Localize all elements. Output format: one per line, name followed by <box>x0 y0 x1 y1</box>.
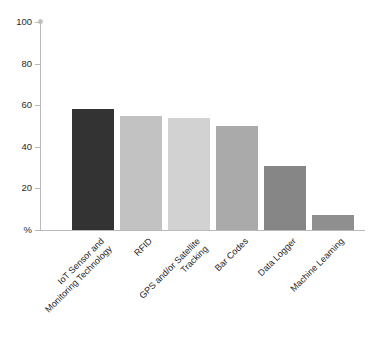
x-axis-labels: IoT Sensor and Monitoring TechnologyRFID… <box>0 0 382 340</box>
bar-chart: %20406080100 IoT Sensor and Monitoring T… <box>0 0 382 340</box>
x-axis-category-label: Machine Learning <box>254 236 346 328</box>
x-axis-category-label: Data Logger <box>206 236 298 328</box>
